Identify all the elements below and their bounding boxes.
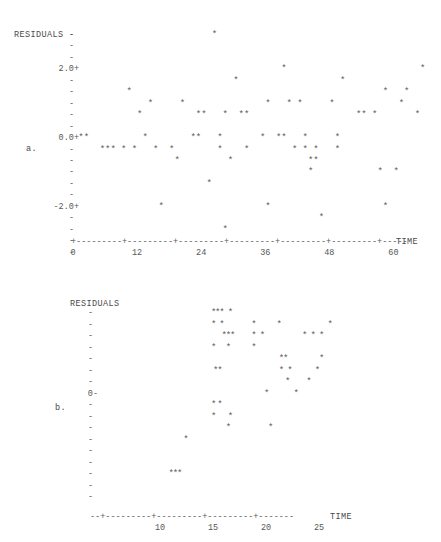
data-point: * xyxy=(244,111,249,120)
data-point: * xyxy=(251,332,256,341)
data-point: * xyxy=(287,367,292,376)
y-tick-minor-b-15: - xyxy=(0,482,93,491)
data-point: * xyxy=(319,355,324,364)
data-point: * xyxy=(226,424,231,433)
x-tick-label-a-0: 0 xyxy=(59,249,87,258)
y-tick-minor-a-4: - xyxy=(0,77,74,86)
x-axis-line-b: --+---------+---------+---------+------- xyxy=(90,513,294,522)
data-point: * xyxy=(393,168,398,177)
data-point: * xyxy=(226,344,231,353)
y-tick-label-a-2: -2.0+ xyxy=(0,203,79,212)
residual-plot-b: RESIDUALSb.-------0----------***********… xyxy=(0,280,441,542)
data-point: * xyxy=(217,146,222,155)
data-point: * xyxy=(217,367,222,376)
x-tick-label-a-4: 48 xyxy=(315,249,343,258)
y-tick-minor-a-5: - xyxy=(0,88,74,97)
data-point: * xyxy=(308,168,313,177)
data-point: * xyxy=(228,309,233,318)
data-point: * xyxy=(311,332,316,341)
x-axis-title-a: TIME xyxy=(396,238,418,247)
data-point: * xyxy=(302,332,307,341)
y-tick-minor-b-14: - xyxy=(0,470,93,479)
data-point: * xyxy=(335,146,340,155)
y-tick-minor-a-17: - xyxy=(0,226,74,235)
y-tick-minor-b-16: - xyxy=(0,493,93,502)
data-point: * xyxy=(219,321,224,330)
x-axis-line-a: +---------+---------+---------+---------… xyxy=(71,238,408,247)
x-axis-title-b: TIME xyxy=(330,513,352,522)
data-point: * xyxy=(260,134,265,143)
data-point: * xyxy=(219,309,224,318)
data-point: * xyxy=(399,100,404,109)
data-point: * xyxy=(158,203,163,212)
data-point: * xyxy=(211,344,216,353)
data-point: * xyxy=(383,203,388,212)
data-point: * xyxy=(84,134,89,143)
y-tick-minor-b-3: - xyxy=(0,344,93,353)
data-point: * xyxy=(287,100,292,109)
y-tick-minor-b-11: - xyxy=(0,436,93,445)
data-point: * xyxy=(142,134,147,143)
data-point: * xyxy=(313,146,318,155)
y-tick-minor-a-1: - xyxy=(0,42,74,51)
data-point: * xyxy=(223,226,228,235)
data-point: * xyxy=(303,134,308,143)
data-point: * xyxy=(196,134,201,143)
data-point: * xyxy=(212,31,217,40)
data-point: * xyxy=(319,214,324,223)
data-point: * xyxy=(372,111,377,120)
y-tick-minor-b-9: - xyxy=(0,413,93,422)
y-title-tick-a: - xyxy=(0,31,74,40)
y-tick-minor-b-0: - xyxy=(0,309,93,318)
data-point: * xyxy=(361,111,366,120)
data-point: * xyxy=(211,413,216,422)
data-point: * xyxy=(148,100,153,109)
data-point: * xyxy=(183,436,188,445)
y-tick-minor-a-10: - xyxy=(0,146,74,155)
data-point: * xyxy=(121,146,126,155)
x-tick-label-a-1: 12 xyxy=(123,249,151,258)
y-tick-minor-a-18: - xyxy=(0,237,74,246)
y-tick-minor-b-5: - xyxy=(0,367,93,376)
data-point: * xyxy=(281,134,286,143)
y-tick-minor-a-8: - xyxy=(0,123,74,132)
x-tick-label-a-3: 36 xyxy=(251,249,279,258)
data-point: * xyxy=(217,401,222,410)
data-point: * xyxy=(265,203,270,212)
data-point: * xyxy=(415,111,420,120)
data-point: * xyxy=(297,100,302,109)
y-tick-label-a-0: 2.0+ xyxy=(0,65,79,74)
data-point: * xyxy=(306,378,311,387)
x-tick-label-b-3: 25 xyxy=(305,524,333,533)
data-point: * xyxy=(251,321,256,330)
x-tick-label-a-5: 60 xyxy=(379,249,407,258)
data-point: * xyxy=(230,332,235,341)
y-tick-minor-a-2: - xyxy=(0,54,74,63)
data-point: * xyxy=(319,332,324,341)
data-point: * xyxy=(153,146,158,155)
data-point: * xyxy=(217,134,222,143)
data-point: * xyxy=(169,146,174,155)
x-tick-label-a-2: 24 xyxy=(187,249,215,258)
data-point: * xyxy=(264,390,269,399)
y-tick-minor-a-14: - xyxy=(0,191,74,200)
data-point: * xyxy=(292,146,297,155)
y-tick-minor-b-13: - xyxy=(0,459,93,468)
y-tick-minor-b-4: - xyxy=(0,355,93,364)
data-point: * xyxy=(294,390,299,399)
data-point: * xyxy=(383,88,388,97)
data-point: * xyxy=(244,146,249,155)
data-point: * xyxy=(277,321,282,330)
data-point: * xyxy=(340,77,345,86)
data-point: * xyxy=(207,180,212,189)
data-point: * xyxy=(137,111,142,120)
y-tick-minor-a-12: - xyxy=(0,168,74,177)
y-tick-minor-a-13: - xyxy=(0,180,74,189)
data-point: * xyxy=(132,146,137,155)
y-tick-minor-b-6: - xyxy=(0,378,93,387)
data-point: * xyxy=(110,146,115,155)
data-point: * xyxy=(283,355,288,364)
data-point: * xyxy=(223,111,228,120)
y-tick-minor-b-10: - xyxy=(0,424,93,433)
data-point: * xyxy=(303,146,308,155)
